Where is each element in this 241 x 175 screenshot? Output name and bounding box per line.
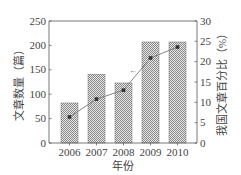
y-right-tick-label: 10 xyxy=(200,96,212,108)
y-right-tick-label: 30 xyxy=(200,15,212,27)
bar-2006 xyxy=(61,103,78,143)
x-tick-label: 2009 xyxy=(140,146,163,158)
y-right-tick-label: 0 xyxy=(200,137,206,149)
arrow-annotation: ← xyxy=(129,66,137,75)
y-right-tick-label: 25 xyxy=(200,35,212,47)
y-tick-label: 150 xyxy=(30,63,47,75)
x-tick-label: 2010 xyxy=(167,146,190,158)
bar-2010 xyxy=(169,42,186,143)
line-marker xyxy=(68,115,72,119)
line-marker xyxy=(149,56,153,60)
y-tick-label: 50 xyxy=(35,112,47,124)
y-tick-label: 200 xyxy=(30,39,47,51)
x-tick-label: 2008 xyxy=(113,146,136,158)
chart: ← 05010015020025005101520253020062007200… xyxy=(0,0,241,175)
y-right-tick-label: 5 xyxy=(200,116,206,128)
y-right-tick-label: 20 xyxy=(200,55,212,67)
bar-series xyxy=(61,42,186,143)
line-marker xyxy=(176,45,180,49)
line-marker xyxy=(95,97,99,101)
line-marker xyxy=(122,88,126,92)
x-tick-label: 2006 xyxy=(59,146,82,158)
y-tick-label: 0 xyxy=(41,137,47,149)
y-tick-label: 100 xyxy=(30,88,47,100)
y-axis-title: 文章数量（篇） xyxy=(12,44,25,121)
y-right-tick-label: 15 xyxy=(200,76,212,88)
x-axis-title: 年份 xyxy=(112,159,134,172)
x-tick-label: 2007 xyxy=(86,146,109,158)
y-right-axis-title: 我国文章百分比（%） xyxy=(215,28,228,136)
y-tick-label: 250 xyxy=(30,15,47,27)
bar-2007 xyxy=(88,74,105,143)
